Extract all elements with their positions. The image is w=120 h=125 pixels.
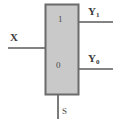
output-label-y0-text: Y	[88, 52, 96, 64]
channel-label-0: 0	[56, 61, 61, 70]
output-label-y1: Y1	[88, 6, 99, 17]
select-label-s: S	[62, 107, 67, 116]
output-label-y0: Y0	[88, 53, 99, 64]
channel-label-1: 1	[58, 15, 63, 24]
output-label-y0-subscript: 0	[96, 58, 100, 66]
demultiplexer-diagram: X Y1 Y0 S 1 0	[0, 0, 120, 125]
output-label-y1-text: Y	[88, 5, 96, 17]
input-label-x: X	[10, 32, 18, 43]
output-label-y1-subscript: 1	[96, 11, 100, 19]
